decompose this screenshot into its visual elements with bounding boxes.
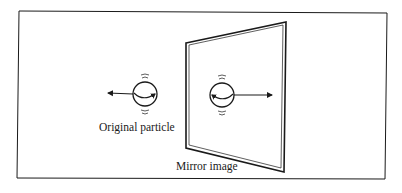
original-momentum-arrow-icon [108,93,133,94]
original-wave-top-icon [141,74,149,78]
original-spin-arrow-icon [134,93,155,98]
original-wave-bottom-icon [141,110,149,114]
mirror-particle [210,75,272,115]
original-particle-body [133,82,157,106]
mirror-plane [186,22,286,172]
outer-frame [17,11,387,179]
mirror-symmetry-diagram: Original particle Mirror image [0,0,402,193]
mirror-spin-arrow-icon [212,94,233,99]
original-particle [108,74,157,114]
original-particle-label: Original particle [99,121,175,133]
mirror-particle-body [210,83,234,107]
mirror-wave-bottom-icon [218,111,226,115]
mirror-wave-top-icon [218,75,226,79]
mirror-image-label: Mirror image [176,160,238,172]
